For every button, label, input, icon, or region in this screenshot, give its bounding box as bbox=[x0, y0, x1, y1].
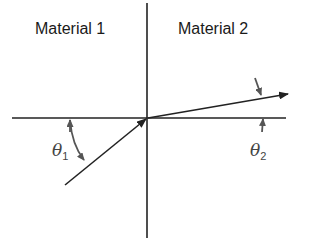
theta1-arc bbox=[70, 120, 84, 160]
theta2-arrow-up bbox=[262, 119, 263, 132]
refracted-ray bbox=[148, 94, 288, 118]
theta2-label: θ2 bbox=[250, 140, 266, 162]
theta1-label: θ1 bbox=[52, 140, 68, 162]
material-1-label: Material 1 bbox=[35, 20, 105, 38]
material-2-label: Material 2 bbox=[178, 20, 248, 38]
theta2-arrow-down bbox=[255, 78, 261, 95]
incident-ray bbox=[65, 119, 146, 185]
